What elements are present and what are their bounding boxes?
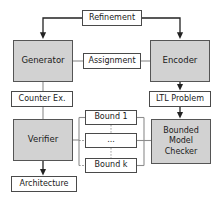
diagram-canvas: Refinement Generator Assignment Encoder … — [0, 0, 223, 201]
edge-verifier-to-bounds-bus — [73, 118, 85, 166]
node-bound-k-label: Bound k — [86, 161, 136, 170]
node-verifier-label: Verifier — [14, 135, 72, 145]
node-bound-ellipsis[interactable]: ... — [85, 133, 137, 148]
node-generator-label: Generator — [14, 56, 72, 66]
node-bound-1-label: Bound 1 — [86, 113, 136, 122]
node-ltl-problem-label: LTL Problem — [150, 95, 210, 104]
node-bound-1[interactable]: Bound 1 — [85, 110, 137, 125]
node-bound-k[interactable]: Bound k — [85, 158, 137, 173]
node-assignment[interactable]: Assignment — [83, 53, 141, 69]
edge-refinement-to-encoder — [142, 18, 180, 37]
node-counter-example[interactable]: Counter Ex. — [11, 91, 73, 107]
node-generator[interactable]: Generator — [13, 40, 73, 82]
node-refinement[interactable]: Refinement — [82, 10, 142, 26]
node-verifier[interactable]: Verifier — [13, 119, 73, 161]
edge-refinement-to-generator — [43, 18, 82, 37]
node-architecture[interactable]: Architecture — [11, 176, 77, 192]
node-bounded-model-checker-label-line1: Bounded — [151, 126, 211, 136]
node-bounded-model-checker-label-line2: Model — [151, 136, 211, 146]
node-counter-example-label: Counter Ex. — [12, 95, 72, 104]
node-assignment-label: Assignment — [84, 57, 140, 66]
node-bounded-model-checker[interactable]: Bounded Model Checker — [151, 119, 211, 164]
node-bounded-model-checker-label-line3: Checker — [151, 147, 211, 157]
node-architecture-label: Architecture — [12, 180, 76, 189]
edge-bounds-bus-to-bmc — [137, 118, 151, 166]
node-bound-ellipsis-label: ... — [86, 136, 136, 145]
node-ltl-problem[interactable]: LTL Problem — [149, 91, 211, 107]
node-encoder[interactable]: Encoder — [150, 40, 210, 82]
node-encoder-label: Encoder — [151, 56, 209, 66]
node-refinement-label: Refinement — [83, 14, 141, 23]
